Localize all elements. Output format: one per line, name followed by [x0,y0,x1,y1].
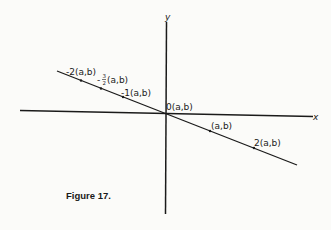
label-2: 2(a,b) [254,138,281,148]
label-1: (a,b) [211,121,232,131]
svg-text:3: 3 [103,73,107,79]
svg-text:-: - [97,75,100,85]
point-marker-neg3-2 [100,87,102,89]
label-neg1: -1(a,b) [121,88,151,98]
point-marker-neg2 [80,79,82,81]
vector-line [57,71,297,165]
label-neg3-2: - 3 2 (a,b) [97,73,128,86]
y-axis-label: y [164,12,171,22]
figure-caption: Figure 17. [66,190,111,201]
x-axis-label: x [312,112,319,122]
figure-canvas: x y -2(a,b) - 3 2 (a,b) -1(a,b) 0(a,b) (… [0,0,331,230]
label-origin: 0(a,b) [166,102,193,112]
svg-text:2: 2 [103,80,107,86]
label-neg2: -2(a,b) [66,67,96,77]
y-axis [166,22,167,214]
svg-text:(a,b): (a,b) [107,75,128,85]
